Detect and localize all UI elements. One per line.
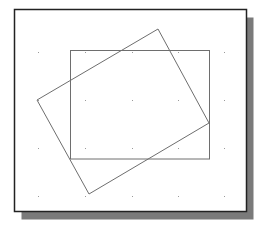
grid-dot [38,148,39,149]
grid-dot [178,196,179,197]
grid-dot [38,196,39,197]
grid-dot [132,148,133,149]
diagram-canvas [0,0,258,228]
grid-dot [178,148,179,149]
grid-dot [85,52,86,53]
drawing-frame [15,10,247,212]
grid-dot [178,100,179,101]
grid-dot [178,52,179,53]
grid-dot [224,196,225,197]
grid-dot [85,196,86,197]
grid-dot [85,100,86,101]
grid-dot [132,196,133,197]
grid-dot [224,100,225,101]
grid-dot [132,100,133,101]
grid-dot [85,148,86,149]
grid-dot [224,148,225,149]
grid-dot [38,100,39,101]
grid-dot [224,52,225,53]
grid-dot [38,52,39,53]
grid-dot [132,52,133,53]
